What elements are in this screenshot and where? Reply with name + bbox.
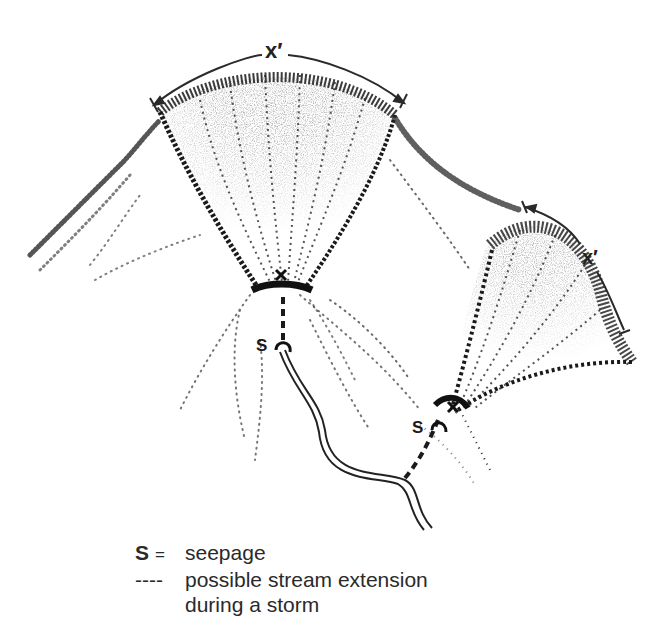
right-hollow [420,226,632,485]
seepage-right-label: S [412,418,423,438]
legend-item-seepage: S= seepage [135,540,428,567]
lower-slopes [180,295,420,460]
legend-seepage-key: S= [135,540,185,567]
right-hollow-width-label: x′ [582,246,598,269]
upper-hollow [160,75,395,290]
legend-dash-symbol: ---- [135,567,185,592]
seepage-left-label: S [256,336,267,356]
terrain-illustration [0,0,660,540]
upper-hollow-width-label: x′ [265,38,283,64]
legend: S= seepage ---- possible stream extensio… [135,540,428,617]
legend-equals: = [155,545,165,564]
legend-stream-extension-label-line2: during a storm [185,592,319,617]
legend-stream-extension-label-line1: possible stream extension [185,567,428,592]
seepage-left-outlet [276,343,290,352]
possible-stream-extension [283,297,438,478]
legend-item-stream-extension-cont: during a storm [135,592,428,617]
legend-item-stream-extension: ---- possible stream extension [135,567,428,592]
hillside-diagram: x′ x′ S S [0,0,660,540]
legend-seepage-label: seepage [185,540,266,565]
legend-seepage-symbol: S [135,541,149,564]
seepage-right-outlet [432,423,446,432]
stream-channel [280,350,432,530]
